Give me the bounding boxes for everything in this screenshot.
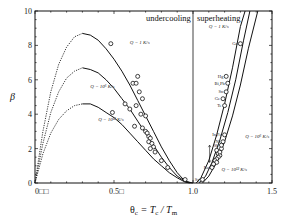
data-point-labeled	[210, 166, 214, 170]
data-point	[128, 107, 132, 111]
data-point	[140, 97, 144, 101]
undercooling-label: undercooling	[146, 13, 192, 23]
data-point	[140, 126, 144, 130]
element-label: Ga	[232, 41, 237, 46]
curve-annotation: Q = 10⁶ K/s	[245, 134, 269, 139]
element-label: Te	[217, 103, 221, 108]
data-point	[123, 102, 127, 106]
y-tick-label: 4	[28, 110, 32, 119]
data-point-labeled	[238, 42, 242, 46]
data-point	[134, 81, 138, 85]
y-tick-label: 8	[28, 41, 32, 50]
data-point-labeled	[224, 90, 228, 94]
data-point-labeled	[226, 81, 230, 85]
data-point	[110, 110, 114, 114]
curve-annotation: Q = 10¹² K/s	[221, 167, 246, 172]
y-tick-label: 6	[28, 76, 32, 85]
data-point	[159, 159, 163, 163]
curve	[82, 104, 189, 183]
curve-dashed	[35, 104, 82, 183]
plot-frame	[35, 11, 272, 183]
element-label: Sg	[195, 177, 201, 182]
data-point-labeled	[224, 74, 228, 78]
data-point	[148, 147, 152, 151]
data-point	[183, 178, 187, 182]
data-point-labeled	[223, 133, 227, 137]
chart: 0□□0.5□1.01.50246810GaHgBi,PbSnGeTeIn,Fe…	[0, 0, 282, 219]
data-point-labeled	[221, 97, 225, 101]
data-point	[136, 74, 140, 78]
superheating-label: superheating	[197, 13, 241, 23]
element-label: Ru	[204, 165, 210, 170]
data-point	[139, 112, 143, 116]
curve-annotation: Q = 1 K/s	[209, 24, 229, 29]
x-axis-title: θc = Tc / Tm	[130, 204, 178, 217]
curve-dashed	[35, 68, 82, 183]
data-point	[144, 114, 148, 118]
element-label: Sb	[214, 143, 220, 148]
y-tick-label: 10	[24, 7, 32, 16]
curve-annotation: Q = 10⁶ K/s	[90, 84, 114, 89]
element-label: Hg	[218, 74, 224, 79]
data-point	[134, 104, 138, 108]
curve-annotation: Q = 1 K/s	[130, 40, 150, 45]
data-point	[133, 124, 137, 128]
element-label: Ge	[215, 96, 220, 101]
x-tick-label: 1.5	[267, 187, 277, 196]
y-tick-label: 0	[28, 179, 32, 188]
curve-annotation: Q = 10¹² K/s	[98, 117, 123, 122]
x-tick-label: 0□□	[35, 187, 49, 196]
curve	[203, 11, 258, 183]
y-axis-title: β	[9, 91, 15, 102]
data-point-labeled	[219, 143, 223, 147]
x-tick-label: 0.5□	[109, 187, 124, 196]
curve-dashed	[35, 33, 82, 183]
x-tick-label: 1.0	[188, 187, 198, 196]
y-tick-label: 2	[28, 145, 32, 154]
data-point-labeled	[200, 178, 204, 182]
element-label: Sn	[218, 89, 224, 94]
data-point	[109, 42, 113, 46]
plot-area: 0□□0.5□1.01.50246810GaHgBi,PbSnGeTeIn,Fe…	[24, 7, 277, 196]
data-point	[166, 166, 170, 170]
data-point	[153, 150, 157, 154]
element-label: Bi,Pb	[215, 81, 226, 87]
data-point	[137, 90, 141, 94]
data-point-labeled	[223, 104, 227, 108]
